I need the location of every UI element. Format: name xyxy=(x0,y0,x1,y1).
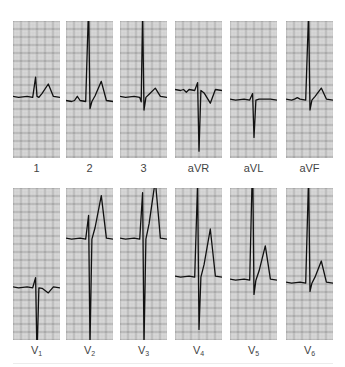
lead-label-subscript: 2 xyxy=(91,350,95,357)
lead-label-subscript: 6 xyxy=(311,350,315,357)
ecg-grid-i xyxy=(13,21,60,158)
ecg-panel-avr xyxy=(175,21,222,158)
ecg-panel-iii xyxy=(120,21,167,158)
ecg-grid-v2 xyxy=(66,188,113,340)
ecg-panel-v3 xyxy=(120,188,167,340)
lead-label-v2: V2 xyxy=(65,344,115,360)
lead-label-avf: aVF xyxy=(285,162,335,174)
lead-label-text: 3 xyxy=(140,162,146,174)
ecg-panel-avf xyxy=(286,21,333,158)
lead-label-subscript: 5 xyxy=(255,350,259,357)
lead-label-text: aVL xyxy=(244,162,264,174)
ecg-panel-i xyxy=(13,21,60,158)
lead-label-ii: 2 xyxy=(65,162,115,174)
lead-label-subscript: 1 xyxy=(38,350,42,357)
lead-label-text: aVF xyxy=(299,162,319,174)
lead-label-i: 1 xyxy=(12,162,62,174)
ecg-grid-avl xyxy=(230,21,277,158)
ecg-panel-v5 xyxy=(230,188,277,340)
ecg-grid-v3 xyxy=(120,188,167,340)
lead-label-v6: V6 xyxy=(285,344,335,360)
ecg-grid-v5 xyxy=(230,188,277,340)
ecg-panel-v6 xyxy=(286,188,333,340)
lead-label-v3: V3 xyxy=(119,344,169,360)
ecg-panel-avl xyxy=(230,21,277,158)
ecg-grid-avr xyxy=(175,21,222,158)
lead-label-subscript: 3 xyxy=(145,350,149,357)
ecg-panel-v1 xyxy=(13,188,60,340)
ecg-panel-v4 xyxy=(175,188,222,340)
lead-label-v1: V1 xyxy=(12,344,62,360)
divider-line xyxy=(13,363,333,364)
ecg-grid-v4 xyxy=(175,188,222,340)
lead-label-v5: V5 xyxy=(229,344,279,360)
lead-label-text: 2 xyxy=(86,162,92,174)
ecg-panel-ii xyxy=(66,21,113,158)
lead-label-avl: aVL xyxy=(229,162,279,174)
ecg-grid-ii xyxy=(66,21,113,158)
lead-label-iii: 3 xyxy=(119,162,169,174)
lead-label-text: 1 xyxy=(33,162,39,174)
ecg-grid-iii xyxy=(120,21,167,158)
ecg-grid-v1 xyxy=(13,188,60,340)
lead-label-avr: aVR xyxy=(174,162,224,174)
ecg-grid-avf xyxy=(286,21,333,158)
lead-label-subscript: 4 xyxy=(200,350,204,357)
ecg-grid-v6 xyxy=(286,188,333,340)
ecg-panel-v2 xyxy=(66,188,113,340)
lead-label-text: aVR xyxy=(188,162,209,174)
lead-label-v4: V4 xyxy=(174,344,224,360)
